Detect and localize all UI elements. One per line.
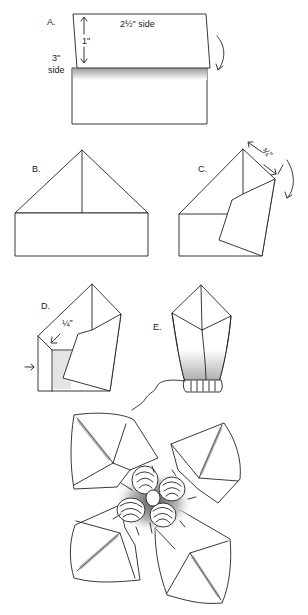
fold-down-arrow-icon [216, 36, 224, 70]
finished-napkin [70, 413, 240, 603]
side-label: side [48, 65, 65, 75]
step-a-label: A. [47, 17, 56, 27]
push-arrow-icon [25, 364, 34, 370]
three-quarter-label: ¾" [260, 146, 275, 161]
side-length-label: 2½" side [120, 19, 155, 29]
step-d-label: D. [41, 301, 50, 311]
step-b: B. [15, 150, 148, 256]
step-c-label: C. [198, 164, 207, 174]
three-inch-label: 3" [52, 53, 60, 63]
step-e-label: E. [153, 322, 162, 332]
flower-bloom [159, 477, 185, 501]
rectangle-base [15, 213, 148, 256]
step-b-label: B. [32, 164, 41, 174]
step-a: A. 2½" side 1" 3" side [47, 14, 224, 124]
step-d: D. ¼" [25, 284, 121, 391]
step-e: E. [132, 285, 231, 410]
fold-shadow [73, 68, 207, 80]
flower-bloom [117, 498, 145, 522]
flower-bloom [150, 503, 176, 527]
fold-arrow-icon [285, 160, 293, 198]
folding-diagram: A. 2½" side 1" 3" side B. C. ¾" [0, 0, 308, 615]
triangle-top [15, 150, 148, 213]
quarter-inch-label: ¼" [62, 318, 73, 328]
tie-string [132, 380, 185, 410]
step-c: C. ¾" [179, 142, 293, 256]
one-inch-label: 1" [82, 36, 90, 46]
